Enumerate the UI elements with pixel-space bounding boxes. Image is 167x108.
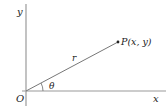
point-label: P(x, y)	[120, 36, 152, 47]
angle-arc	[41, 83, 43, 91]
x-axis-label: x	[153, 93, 159, 104]
angle-label: θ	[49, 81, 55, 91]
radius-label: r	[72, 53, 77, 63]
origin-label: O	[16, 93, 24, 104]
radius-ray	[26, 42, 118, 91]
point-p	[117, 41, 120, 44]
y-axis-label: y	[16, 6, 23, 17]
polar-coordinate-diagram: y x O r θ P(x, y)	[0, 0, 167, 108]
